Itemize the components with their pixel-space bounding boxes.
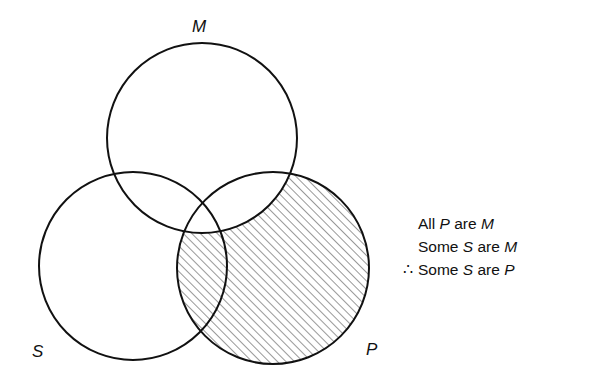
label-m: M bbox=[192, 17, 206, 37]
venn-diagram bbox=[0, 0, 613, 386]
hatched-region-p-outside-m bbox=[0, 0, 613, 386]
premise-2: Some S are M bbox=[418, 235, 517, 258]
label-s: S bbox=[32, 342, 43, 362]
therefore-icon: ∴ bbox=[403, 258, 418, 281]
syllogism: All P are M Some S are M ∴Some S are P bbox=[418, 212, 517, 281]
premise-1: All P are M bbox=[418, 212, 517, 235]
conclusion: ∴Some S are P bbox=[418, 258, 517, 281]
label-p: P bbox=[366, 340, 377, 360]
